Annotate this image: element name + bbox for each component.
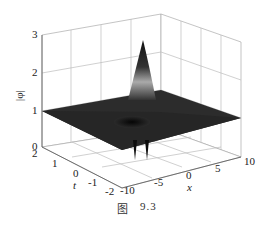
- figure-caption-prefix: 图: [117, 200, 129, 216]
- x-tick-neg5: -5: [154, 177, 163, 188]
- t-tick-1: 1: [52, 158, 58, 169]
- t-tick-neg2: -2: [105, 186, 114, 197]
- z-tick-3: 3: [32, 29, 38, 40]
- x-tick-neg10: -10: [120, 185, 135, 196]
- x-axis-label: x: [187, 182, 192, 193]
- z-tick-2: 2: [32, 67, 38, 78]
- x-tick-10: 10: [244, 156, 255, 167]
- t-tick-neg1: -1: [88, 177, 97, 188]
- t-tick-2: 2: [32, 148, 38, 159]
- z-tick-1: 1: [32, 105, 38, 116]
- z-axis-label: |φ|: [14, 90, 25, 101]
- t-tick-0: 0: [73, 168, 79, 179]
- x-tick-5: 5: [215, 163, 221, 174]
- x-tick-0: 0: [186, 170, 192, 181]
- t-axis-label: t: [73, 180, 76, 191]
- figure-caption-number: 9.3: [140, 200, 157, 212]
